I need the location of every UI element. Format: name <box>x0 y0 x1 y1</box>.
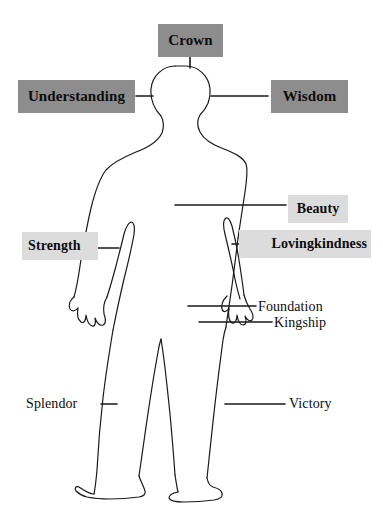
diagram-canvas: Crown Understanding Wisdom Beauty Streng… <box>0 0 383 520</box>
label-understanding[interactable]: Understanding <box>18 80 135 113</box>
label-victory[interactable]: Victory <box>289 394 353 414</box>
label-crown[interactable]: Crown <box>158 24 223 57</box>
body-outline-figure <box>0 0 383 520</box>
label-kingship[interactable]: Kingship <box>274 313 360 333</box>
label-beauty[interactable]: Beauty <box>288 195 348 223</box>
label-splendor[interactable]: Splendor <box>26 394 100 414</box>
label-wisdom[interactable]: Wisdom <box>271 80 348 113</box>
label-lovingkindness[interactable]: Lovingkindness <box>239 230 371 258</box>
label-strength[interactable]: Strength <box>22 232 98 260</box>
